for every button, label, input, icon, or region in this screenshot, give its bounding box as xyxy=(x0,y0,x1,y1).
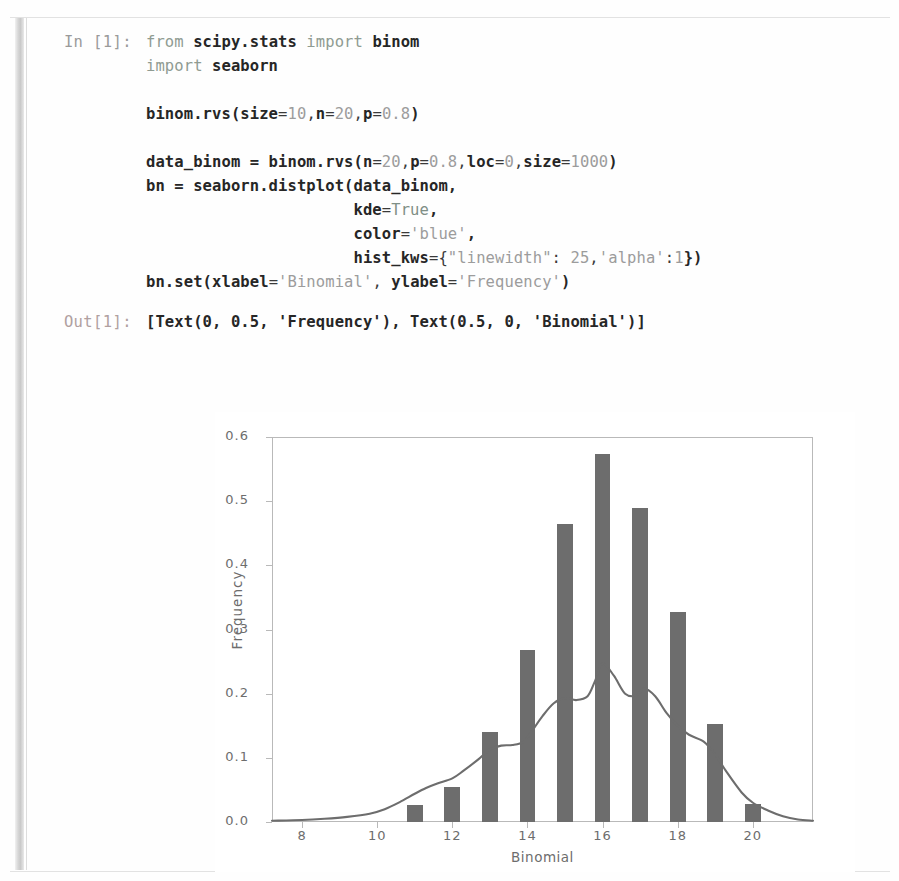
code-token: binom xyxy=(372,33,419,51)
code-line: bn = seaborn.distplot(data_binom, xyxy=(146,174,703,198)
x-tick-label: 20 xyxy=(733,828,773,843)
code-token: 20 xyxy=(335,105,354,123)
x-tick-label: 18 xyxy=(658,828,698,843)
scanned-page: In [1]: from scipy.stats import binomimp… xyxy=(0,0,899,881)
kde-curve xyxy=(272,437,813,822)
code-token: = xyxy=(448,273,457,291)
code-token: n xyxy=(316,105,325,123)
code-token: , xyxy=(401,153,410,171)
code-token: 'Frequency' xyxy=(457,273,561,291)
x-tick-label: 10 xyxy=(357,828,397,843)
code-token: color xyxy=(146,225,401,243)
figure-output: 0.00.10.20.30.40.50.6 8101214161820 Bino… xyxy=(215,412,855,872)
x-tick-mark xyxy=(753,822,754,828)
code-token: import xyxy=(306,33,372,51)
code-token: ={ xyxy=(429,249,448,267)
code-token: 0 xyxy=(504,153,513,171)
code-token: data_binom = binom.rvs( xyxy=(146,153,363,171)
code-token: = xyxy=(420,153,429,171)
x-tick-mark xyxy=(452,822,453,828)
code-token: bn.set(xlabel xyxy=(146,273,269,291)
code-token: 'alpha' xyxy=(599,249,665,267)
code-token: import xyxy=(146,57,212,75)
x-tick-mark xyxy=(678,822,679,828)
code-token: ) xyxy=(561,273,570,291)
code-token: 25 xyxy=(570,249,589,267)
code-token: , xyxy=(457,153,466,171)
y-tick-label: 0.0 xyxy=(203,813,249,828)
code-token: = xyxy=(372,153,381,171)
code-token: n xyxy=(363,153,372,171)
code-token: , xyxy=(354,105,363,123)
code-token: 10 xyxy=(288,105,307,123)
code-token: 1 xyxy=(674,249,683,267)
code-token: , xyxy=(589,249,598,267)
y-tick-label: 0.1 xyxy=(203,749,249,764)
code-token: seaborn xyxy=(212,57,278,75)
x-axis-label: Binomial xyxy=(272,849,813,865)
code-token: = xyxy=(561,153,570,171)
code-token: ylabel xyxy=(391,273,448,291)
code-token: kde xyxy=(146,201,382,219)
code-line xyxy=(146,78,703,102)
code-editor[interactable]: from scipy.stats import binomimport seab… xyxy=(146,30,703,294)
code-line: kde=True, xyxy=(146,198,703,222)
code-line: import seaborn xyxy=(146,54,703,78)
code-token: ) xyxy=(608,153,617,171)
page-top-rule xyxy=(10,17,890,18)
page-left-edge xyxy=(26,18,27,870)
x-tick-mark xyxy=(302,822,303,828)
code-line: color='blue', xyxy=(146,222,703,246)
output-text: [Text(0, 0.5, 'Frequency'), Text(0.5, 0,… xyxy=(146,310,646,334)
code-line: binom.rvs(size=10,n=20,p=0.8) xyxy=(146,102,703,126)
code-token: : xyxy=(665,249,674,267)
y-tick-label: 0.6 xyxy=(203,428,249,443)
page-gutter-shadow xyxy=(15,18,24,870)
code-token: 'blue' xyxy=(410,225,467,243)
x-tick-label: 12 xyxy=(432,828,472,843)
code-token: , xyxy=(306,105,315,123)
output-prompt: Out[1]: xyxy=(40,310,146,334)
code-token: 'Binomial' xyxy=(278,273,372,291)
notebook-input-row: In [1]: from scipy.stats import binomimp… xyxy=(40,30,880,294)
code-token: , xyxy=(372,273,391,291)
code-token: = xyxy=(372,105,381,123)
matplotlib-figure: 0.00.10.20.30.40.50.6 8101214161820 Bino… xyxy=(215,412,855,872)
code-token: size xyxy=(523,153,561,171)
code-line xyxy=(146,126,703,150)
x-tick-mark xyxy=(527,822,528,828)
code-line: hist_kws={"linewidth": 25,'alpha':1}) xyxy=(146,246,703,270)
code-token: True xyxy=(391,201,429,219)
code-token: , xyxy=(429,201,438,219)
code-token: size xyxy=(240,105,278,123)
code-token: 0.8 xyxy=(429,153,457,171)
x-tick-label: 16 xyxy=(583,828,623,843)
code-line: bn.set(xlabel='Binomial', ylabel='Freque… xyxy=(146,270,703,294)
code-token: loc xyxy=(467,153,495,171)
code-token: }) xyxy=(684,249,703,267)
code-token: 0.8 xyxy=(382,105,410,123)
code-token: = xyxy=(382,201,391,219)
y-tick-mark xyxy=(266,822,272,823)
code-token: = xyxy=(269,273,278,291)
code-token: scipy.stats xyxy=(193,33,306,51)
code-token: "linewidth" xyxy=(448,249,552,267)
code-token: hist_kws xyxy=(146,249,429,267)
x-tick-label: 14 xyxy=(507,828,547,843)
code-token: : xyxy=(552,249,571,267)
code-token: = xyxy=(401,225,410,243)
code-token: binom.rvs( xyxy=(146,105,240,123)
notebook-cell: In [1]: from scipy.stats import binomimp… xyxy=(40,30,880,334)
code-token: bn = seaborn.distplot(data_binom, xyxy=(146,177,457,195)
notebook-output-row: Out[1]: [Text(0, 0.5, 'Frequency'), Text… xyxy=(40,310,880,334)
code-token: p xyxy=(410,153,419,171)
code-token: , xyxy=(514,153,523,171)
code-line: data_binom = binom.rvs(n=20,p=0.8,loc=0,… xyxy=(146,150,703,174)
y-tick-label: 0.5 xyxy=(203,492,249,507)
input-prompt[interactable]: In [1]: xyxy=(40,30,146,54)
cell-spacer xyxy=(40,294,880,310)
code-line: from scipy.stats import binom xyxy=(146,30,703,54)
kde-path xyxy=(272,663,813,820)
x-tick-label: 8 xyxy=(282,828,322,843)
y-axis-label: Frequency xyxy=(229,510,245,710)
